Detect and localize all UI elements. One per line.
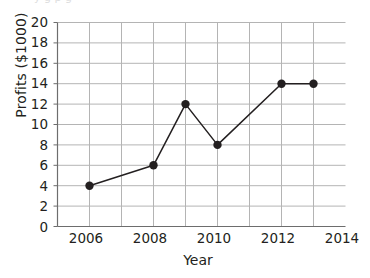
data-point (181, 100, 189, 108)
data-point (309, 80, 317, 88)
data-point (277, 80, 285, 88)
y-gridlines (58, 23, 346, 207)
plot-area (0, 0, 370, 278)
profits-series-markers (85, 80, 317, 190)
line-chart-figure: y g p g Profits ($1000) Year 20 18 16 14… (0, 0, 370, 278)
data-point (85, 182, 93, 190)
data-point (213, 141, 221, 149)
data-point (149, 161, 157, 169)
profits-series-line (90, 84, 314, 186)
